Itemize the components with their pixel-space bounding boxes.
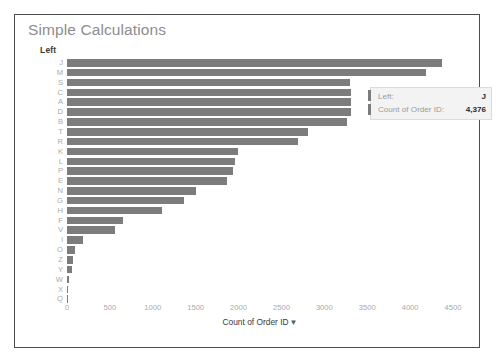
bar-row[interactable]: L bbox=[15, 157, 479, 167]
y-axis-tick-label: X bbox=[23, 285, 63, 295]
bar-row[interactable]: Z bbox=[15, 255, 479, 265]
bar[interactable] bbox=[67, 246, 75, 254]
bar[interactable] bbox=[67, 236, 83, 244]
bar[interactable] bbox=[67, 148, 238, 156]
x-axis-tick-label: 4000 bbox=[402, 303, 419, 312]
y-axis-tick-label: F bbox=[23, 216, 63, 226]
y-axis-tick-label: N bbox=[23, 186, 63, 196]
x-axis: 050010001500200025003000350040004500 Cou… bbox=[15, 303, 479, 343]
bar[interactable] bbox=[67, 197, 184, 205]
x-axis-tick-label: 4500 bbox=[445, 303, 462, 312]
bar[interactable] bbox=[67, 226, 115, 234]
bar[interactable] bbox=[67, 79, 350, 87]
bar[interactable] bbox=[67, 167, 233, 175]
y-axis-tick-label: C bbox=[23, 88, 63, 98]
bar-row[interactable]: W bbox=[15, 275, 479, 285]
bar-row[interactable]: I bbox=[15, 235, 479, 245]
chart-card: Simple Calculations Left JMSCADBTRKLPENG… bbox=[14, 14, 480, 348]
bar[interactable] bbox=[67, 118, 347, 126]
bar-row[interactable]: Y bbox=[15, 265, 479, 275]
y-axis-tick-label: M bbox=[23, 68, 63, 78]
tooltip-value-count: 4,376 bbox=[466, 103, 486, 116]
x-axis-tick-label: 2000 bbox=[230, 303, 247, 312]
bar[interactable] bbox=[67, 266, 72, 274]
y-axis-tick-label: E bbox=[23, 176, 63, 186]
y-axis-title: Left bbox=[40, 45, 56, 55]
x-axis-tick-label: 3000 bbox=[316, 303, 333, 312]
y-axis-tick-label: B bbox=[23, 117, 63, 127]
tooltip-label-left: Left: bbox=[378, 92, 394, 101]
bar-row[interactable]: H bbox=[15, 206, 479, 216]
bar[interactable] bbox=[67, 295, 68, 303]
bar-row[interactable]: K bbox=[15, 147, 479, 157]
tooltip-row: Count of Order ID: 4,376 bbox=[378, 103, 486, 116]
y-axis-tick-label: G bbox=[23, 196, 63, 206]
bar-row[interactable]: R bbox=[15, 137, 479, 147]
y-axis-tick-label: R bbox=[23, 137, 63, 147]
bar[interactable] bbox=[67, 158, 235, 166]
bar-row[interactable]: P bbox=[15, 166, 479, 176]
bar-row[interactable]: T bbox=[15, 127, 479, 137]
bar-row[interactable]: J bbox=[15, 58, 479, 68]
bar-row[interactable]: N bbox=[15, 186, 479, 196]
x-axis-tick-label: 0 bbox=[65, 303, 69, 312]
y-axis-tick-label: Z bbox=[23, 255, 63, 265]
bar[interactable] bbox=[67, 98, 351, 106]
bar[interactable] bbox=[67, 276, 69, 284]
tooltip-row: Left: J bbox=[378, 90, 486, 103]
bar-row[interactable]: O bbox=[15, 245, 479, 255]
y-axis-tick-label: I bbox=[23, 235, 63, 245]
y-axis-tick-label: S bbox=[23, 78, 63, 88]
y-axis-tick-label: D bbox=[23, 107, 63, 117]
y-axis-tick-label: T bbox=[23, 127, 63, 137]
bar[interactable] bbox=[67, 69, 426, 77]
tooltip-label-count: Count of Order ID: bbox=[378, 105, 444, 114]
x-axis-tick-label: 1500 bbox=[187, 303, 204, 312]
bar[interactable] bbox=[67, 207, 162, 215]
bar-row[interactable]: E bbox=[15, 176, 479, 186]
bar-row[interactable]: M bbox=[15, 68, 479, 78]
bar[interactable] bbox=[67, 177, 227, 185]
x-axis-title-label: Count of Order ID bbox=[222, 317, 288, 327]
bar[interactable] bbox=[67, 89, 351, 97]
y-axis-tick-label: P bbox=[23, 166, 63, 176]
x-axis-tick-label: 1000 bbox=[144, 303, 161, 312]
bar[interactable] bbox=[67, 128, 308, 136]
tooltip-value-left: J bbox=[481, 90, 486, 103]
y-axis-tick-label: H bbox=[23, 206, 63, 216]
y-axis-tick-label: L bbox=[23, 157, 63, 167]
y-axis-tick-label: Y bbox=[23, 265, 63, 275]
bar[interactable] bbox=[67, 59, 442, 67]
page-background bbox=[0, 0, 496, 13]
bar[interactable] bbox=[67, 256, 73, 264]
bar-row[interactable]: X bbox=[15, 285, 479, 295]
bar[interactable] bbox=[67, 138, 298, 146]
y-axis-tick-label: O bbox=[23, 245, 63, 255]
y-axis-tick-label: A bbox=[23, 97, 63, 107]
x-axis-tick-label: 500 bbox=[104, 303, 117, 312]
bar-chart-plot: Left JMSCADBTRKLPENGHFVIOZYWXQ 050010001… bbox=[15, 15, 479, 347]
bar[interactable] bbox=[67, 286, 68, 294]
bar[interactable] bbox=[67, 217, 123, 225]
tooltip: Left: J Count of Order ID: 4,376 bbox=[370, 87, 492, 120]
bar-row[interactable]: F bbox=[15, 216, 479, 226]
x-axis-title[interactable]: Count of Order ID▼ bbox=[67, 317, 453, 327]
y-axis-tick-label: V bbox=[23, 225, 63, 235]
sort-descending-icon[interactable]: ▼ bbox=[290, 318, 298, 327]
bar-row[interactable]: G bbox=[15, 196, 479, 206]
y-axis-tick-label: W bbox=[23, 275, 63, 285]
bar[interactable] bbox=[67, 187, 196, 195]
bar-row[interactable]: V bbox=[15, 225, 479, 235]
bar[interactable] bbox=[67, 108, 351, 116]
y-axis-tick-label: K bbox=[23, 147, 63, 157]
x-axis-tick-label: 2500 bbox=[273, 303, 290, 312]
y-axis-tick-label: J bbox=[23, 58, 63, 68]
x-axis-tick-label: 3500 bbox=[359, 303, 376, 312]
